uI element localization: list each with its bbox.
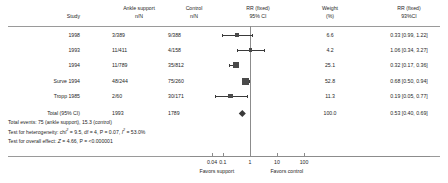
row-study-5-effect: 0.19 [0.05, 0.77]: [372, 94, 446, 99]
column-header-control-unit: n/N: [168, 14, 220, 19]
favors-support-label: Favors support: [188, 168, 246, 174]
point-estimate-study-4: [242, 78, 249, 85]
axis-tick-10: [277, 153, 278, 156]
statistics-block: Total events: 75 (ankle support), 15.3 (…: [8, 118, 145, 145]
heterogeneity-i-value: = 53.0%: [125, 129, 145, 135]
ci-cap-study-1-lower: [222, 34, 223, 37]
axis-tick-100: [304, 153, 305, 156]
column-header-effect-plot-ci: 95% CI: [228, 14, 288, 19]
summary-diamond: [239, 110, 246, 117]
row-study-1-treatment: 3/389: [112, 33, 166, 38]
column-header-weight: Weight: [310, 6, 350, 11]
column-header-weight-unit: (%): [310, 14, 350, 19]
axis-tick-0.04: [212, 153, 213, 156]
point-estimate-study-1: [235, 33, 239, 37]
row-study-4-label: Surve 1994: [8, 79, 80, 84]
row-study-2-treatment: 11/411: [112, 48, 166, 53]
heterogeneity-body: = 9.5, df = 4, P = 0.07,: [68, 129, 121, 135]
overall-body: = 4.66, P = <0.000001: [61, 138, 113, 144]
heterogeneity-prefix: Test for heterogeneity: chi: [8, 129, 66, 135]
null-effect-line: [250, 26, 251, 156]
point-estimate-study-3: [233, 62, 239, 68]
point-estimate-study-5: [228, 94, 233, 99]
row-study-2-weight: 4.2: [310, 48, 350, 53]
axis-tick-0.1: [223, 153, 224, 156]
column-header-control-group: Control: [168, 6, 220, 11]
row-total-treatment: 1993: [112, 111, 166, 116]
row-total-label: Total (95% CI): [8, 111, 80, 116]
ci-cap-study-5-upper: [247, 95, 248, 98]
row-study-3-label: 1994: [8, 63, 80, 68]
row-study-2-label: 1993: [8, 48, 80, 53]
row-study-4-treatment: 48/244: [112, 79, 166, 84]
axis-tick-label-1: 1: [238, 159, 262, 165]
row-study-3-weight: 25.1: [310, 63, 350, 68]
axis-tick-label-100: 100: [292, 159, 316, 165]
row-study-3-effect: 0.32 [0.17, 0.36]: [372, 63, 446, 68]
row-study-5-label: Tropp 1985: [8, 94, 80, 99]
column-header-study: Study: [8, 14, 80, 19]
column-header-treatment-unit: n/N: [112, 14, 166, 19]
heterogeneity-line: Test for heterogeneity: chi2 = 9.5, df =…: [8, 126, 145, 136]
axis-line: [190, 156, 430, 157]
axis-tick-label-0.1: 0.1: [211, 159, 235, 165]
plot-area: [212, 26, 304, 142]
row-total-weight: 100.0: [310, 111, 350, 116]
overall-effect-line: Test for overall effect: Z = 4.66, P = <…: [8, 137, 145, 145]
forest-plot: Study Ankle support n/N Control n/N RR (…: [0, 0, 448, 183]
row-study-1-weight: 6.6: [310, 33, 350, 38]
ci-cap-study-4-upper: [249, 80, 250, 83]
axis-tick-label-10: 10: [265, 159, 289, 165]
ci-cap-study-1-upper: [252, 34, 253, 37]
row-total-effect: 0.53 [0.40, 0.69]: [372, 111, 446, 116]
ci-cap-study-2-lower: [237, 49, 238, 52]
axis-tick-1: [250, 153, 251, 156]
overall-prefix: Test for overall effect:: [8, 138, 58, 144]
column-header-effect-plot: RR (fixed): [228, 6, 288, 11]
row-study-4-effect: 0.68 [0.50, 0.94]: [372, 79, 446, 84]
row-study-5-weight: 11.3: [310, 94, 350, 99]
row-study-4-weight: 52.8: [310, 79, 350, 84]
row-study-5-treatment: 2/60: [112, 94, 166, 99]
ci-cap-study-2-upper: [264, 49, 265, 52]
row-study-3-treatment: 11/789: [112, 63, 166, 68]
column-header-effect-value: RR (fixed): [372, 6, 446, 11]
favors-control-label: Favors control: [258, 168, 316, 174]
ci-cap-study-3-lower: [229, 64, 230, 67]
column-header-treatment-group: Ankle support: [112, 6, 166, 11]
x-axis: 0.040.1110100 Favors support Favors cont…: [190, 156, 430, 183]
column-header-effect-value-ci: 93%CI: [372, 14, 446, 19]
ci-cap-study-5-lower: [215, 95, 216, 98]
row-study-1-effect: 0.33 [0.99, 1.22]: [372, 33, 446, 38]
row-study-2-effect: 1.06 [0.34, 3.27]: [372, 48, 446, 53]
point-estimate-study-2: [249, 48, 253, 52]
total-events-line: Total events: 75 (ankle support), 15.3 (…: [8, 118, 145, 126]
row-study-1-label: 1998: [8, 33, 80, 38]
